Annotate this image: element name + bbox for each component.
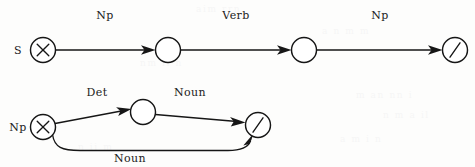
arc-label-noun-lower: Noun <box>114 152 146 165</box>
network-diagram-svg: S Np Verb Np <box>0 0 475 167</box>
arc-label-det: Det <box>87 86 108 99</box>
state-circle[interactable] <box>156 38 181 63</box>
s-network: S Np Verb Np <box>14 9 467 63</box>
arc-s-np-2: Np <box>317 9 443 55</box>
arc-s-np-1: Np <box>56 9 156 55</box>
node-s-final[interactable] <box>443 38 468 63</box>
arc-np-det: Det <box>55 86 132 124</box>
arc-label-np-1: Np <box>96 9 113 22</box>
arc-s-verb: Verb <box>181 9 292 55</box>
node-s-start[interactable] <box>31 38 56 63</box>
node-np-state-1[interactable] <box>131 100 156 125</box>
arc-label-verb: Verb <box>221 9 249 22</box>
np-network: Np Det Noun Noun <box>9 86 270 165</box>
arc-np-noun-upper: Noun <box>155 86 245 127</box>
node-np-final[interactable] <box>246 113 271 138</box>
np-network-name-label: Np <box>9 121 26 134</box>
arc-np-noun-lower: Noun <box>53 134 254 166</box>
s-network-name-label: S <box>14 44 22 57</box>
state-circle[interactable] <box>292 38 317 63</box>
arc-line <box>53 135 251 151</box>
arc-label-np-2: Np <box>371 9 388 22</box>
state-circle[interactable] <box>131 100 156 125</box>
arrowhead <box>230 117 246 127</box>
arc-label-noun-upper: Noun <box>174 86 206 99</box>
figure-canvas: aim rrn a n m m nm ii n m an nn i n m a … <box>0 0 475 167</box>
node-s-state-1[interactable] <box>156 38 181 63</box>
arc-line <box>155 115 237 122</box>
node-np-start[interactable] <box>31 115 56 140</box>
node-s-state-2[interactable] <box>292 38 317 63</box>
arc-line <box>55 111 124 124</box>
